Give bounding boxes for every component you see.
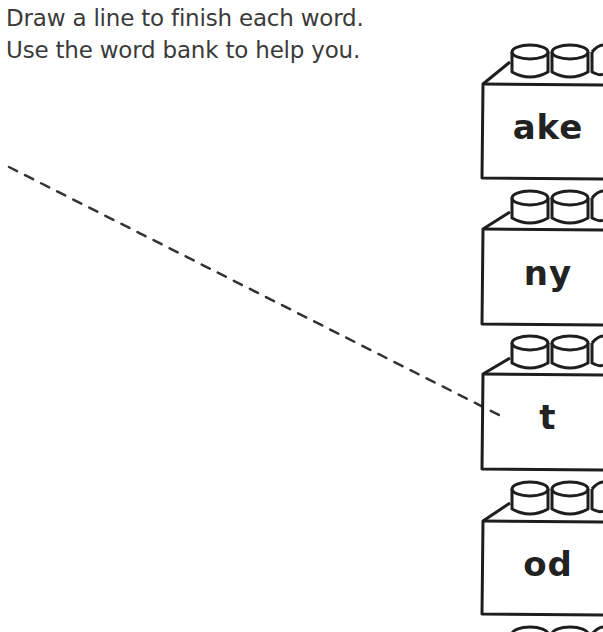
brick-label-t: t	[483, 397, 603, 437]
brick-studs-partial-icon	[512, 627, 603, 632]
brick-label-ny: ny	[483, 253, 603, 293]
brick-label-od: od	[483, 544, 603, 584]
dashed-match-line[interactable]	[9, 167, 505, 418]
brick-label-ake: ake	[483, 107, 603, 147]
worksheet-art	[0, 0, 603, 632]
